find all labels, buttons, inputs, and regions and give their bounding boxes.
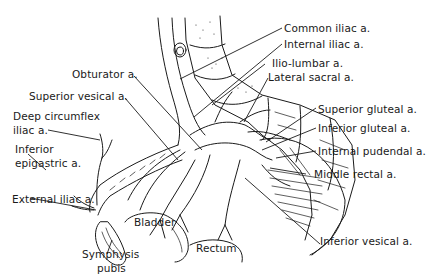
- label-middle-rectal-artery: Middle rectal a.: [314, 168, 397, 181]
- anatomy-diagram: Common iliac a. Internal iliac a. Ilio-l…: [0, 0, 430, 279]
- label-external-iliac-artery: External iliac a.: [12, 193, 95, 206]
- label-superior-vesical-artery: Superior vesical a.: [29, 90, 128, 103]
- label-ilio-lumbar-artery: Ilio-lumbar a.: [272, 57, 343, 70]
- label-internal-pudendal-artery: Internal pudendal a.: [318, 145, 426, 158]
- artery-tree: [72, 18, 290, 240]
- label-inferior-epigastric-artery-line2: epigastric a.: [15, 157, 81, 170]
- label-common-iliac-artery: Common iliac a.: [284, 22, 370, 35]
- label-deep-circumflex-iliac-artery-line2: iliac a.: [13, 124, 48, 137]
- label-symphysis-pubis-line2: pubis: [97, 262, 126, 275]
- label-inferior-gluteal-artery: Inferior gluteal a.: [318, 122, 410, 135]
- label-rectum: Rectum: [196, 242, 237, 255]
- label-obturator-artery: Obturator a.: [72, 68, 138, 81]
- label-lateral-sacral-artery: Lateral sacral a.: [268, 71, 354, 84]
- label-inferior-vesical-artery: Inferior vesical a.: [320, 235, 412, 248]
- sacrum-illustration: [185, 16, 355, 255]
- label-bladder: Bladder: [134, 216, 175, 229]
- label-deep-circumflex-iliac-artery-line1: Deep circumflex: [13, 110, 100, 123]
- label-symphysis-pubis-line1: Symphysis: [82, 248, 139, 261]
- label-internal-iliac-artery: Internal iliac a.: [284, 38, 364, 51]
- label-superior-gluteal-artery: Superior gluteal a.: [318, 103, 417, 116]
- label-inferior-epigastric-artery-line1: Inferior: [15, 143, 54, 156]
